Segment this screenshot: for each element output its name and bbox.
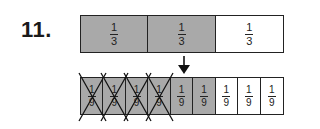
denominator: 9 [111, 98, 117, 108]
denominator: 3 [178, 36, 184, 47]
fraction: 1 3 [178, 22, 186, 47]
numerator: 1 [156, 85, 162, 95]
denominator: 9 [156, 98, 162, 108]
fraction: 1 9 [245, 85, 253, 108]
fraction: 1 9 [88, 85, 96, 108]
ninths-cell-crossed: 1 9 [126, 78, 148, 114]
denominator: 9 [246, 98, 252, 108]
numerator: 1 [201, 85, 207, 95]
fraction: 1 9 [268, 85, 276, 108]
denominator: 9 [224, 98, 230, 108]
numerator: 1 [134, 85, 140, 95]
numerator: 1 [246, 85, 252, 95]
numerator: 1 [179, 85, 185, 95]
denominator: 9 [89, 98, 95, 108]
thirds-cell: 1 3 [216, 16, 283, 52]
problem-number: 11. [21, 17, 52, 43]
numerator: 1 [89, 85, 95, 95]
denominator: 9 [134, 98, 140, 108]
numerator: 1 [111, 22, 117, 33]
denominator: 9 [201, 98, 207, 108]
fraction: 1 9 [177, 85, 185, 108]
numerator: 1 [269, 85, 275, 95]
denominator: 9 [269, 98, 275, 108]
fraction: 1 9 [133, 85, 141, 108]
ninths-cell-crossed: 1 9 [103, 78, 125, 114]
ninths-cell-crossed: 1 9 [148, 78, 170, 114]
fraction: 1 9 [222, 85, 230, 108]
ninths-fraction-bar: 1 9 1 9 1 9 1 9 1 9 [80, 77, 284, 115]
fraction: 1 9 [155, 85, 163, 108]
numerator: 1 [224, 85, 230, 95]
denominator: 3 [246, 36, 252, 47]
fraction: 1 3 [110, 22, 118, 47]
ninths-cell: 1 9 [216, 78, 238, 114]
fraction: 1 9 [200, 85, 208, 108]
numerator: 1 [178, 22, 184, 33]
thirds-cell: 1 3 [81, 16, 148, 52]
ninths-cell: 1 9 [193, 78, 215, 114]
numerator: 1 [246, 22, 252, 33]
ninths-cell: 1 9 [261, 78, 283, 114]
thirds-fraction-bar: 1 3 1 3 1 3 [80, 15, 284, 53]
ninths-cell: 1 9 [238, 78, 260, 114]
ninths-cell-crossed: 1 9 [81, 78, 103, 114]
thirds-cell: 1 3 [148, 16, 215, 52]
fraction: 1 9 [110, 85, 118, 108]
fraction: 1 3 [245, 22, 253, 47]
down-arrow-icon [178, 56, 190, 74]
denominator: 3 [111, 36, 117, 47]
numerator: 1 [111, 85, 117, 95]
ninths-cell: 1 9 [171, 78, 193, 114]
denominator: 9 [179, 98, 185, 108]
